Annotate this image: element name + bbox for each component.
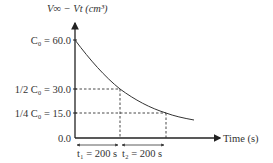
- tick-half: 1/2 C₀ = 30.0: [15, 84, 71, 95]
- guide-lines: [75, 89, 166, 138]
- t1-label: t₁ = 200 s: [77, 148, 117, 159]
- y-axis-label: V∞ − Vt (cm³): [47, 3, 108, 15]
- tick-c0: C₀ = 60.0: [31, 35, 71, 46]
- tick-zero: 0.0: [58, 133, 71, 144]
- tick-quarter: 1/4 C₀ = 15.0: [15, 108, 71, 119]
- x-axis-label: Time (s): [223, 133, 259, 145]
- half-life-chart: C₀ = 60.0 1/2 C₀ = 30.0 1/4 C₀ = 15.0 0.…: [0, 0, 273, 163]
- decay-curve: [75, 40, 194, 120]
- t2-label: t₂ = 200 s: [122, 148, 162, 159]
